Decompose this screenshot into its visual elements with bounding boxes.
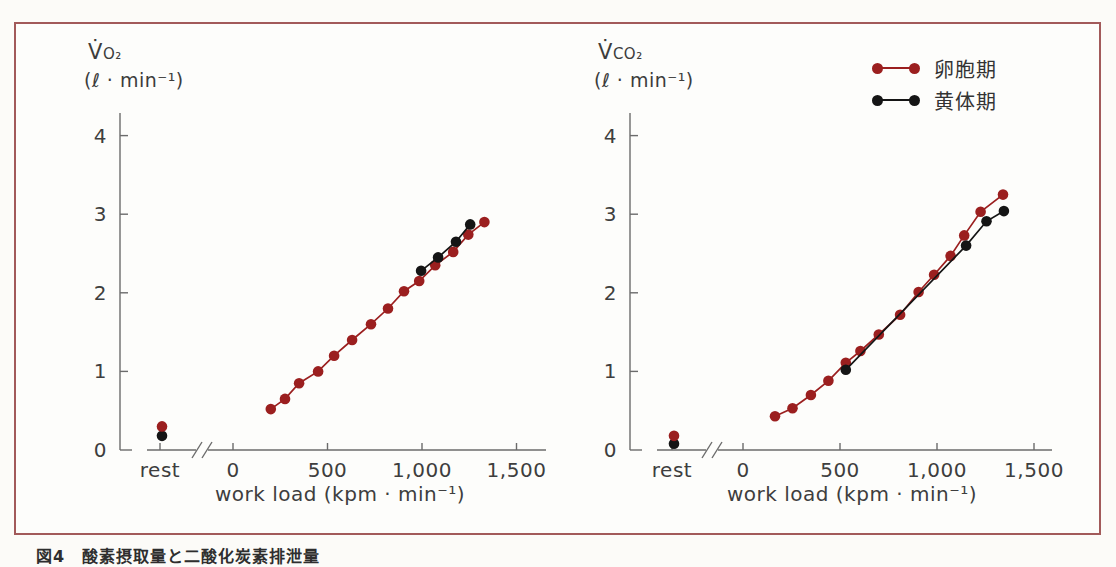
data-point [479, 217, 490, 228]
legend: 卵胞期 黄体期 [872, 56, 997, 112]
series-line [421, 224, 470, 270]
vco2-unit-label: (ℓ · min⁻¹) [594, 69, 694, 91]
data-point [414, 276, 425, 287]
data-point [999, 206, 1010, 217]
y-tick-label: 4 [604, 124, 617, 148]
rest-data-point [157, 431, 168, 442]
figure-caption: 図4 酸素摂取量と二酸化炭素排泄量 [36, 543, 320, 567]
data-point [451, 236, 462, 247]
legend-dot-icon [872, 63, 883, 74]
data-point [347, 335, 358, 346]
y-tick-label: 4 [94, 124, 107, 148]
legend-label-luteal: 黄体期 [934, 86, 997, 115]
data-point [280, 394, 291, 405]
x-tick-label: 0 [736, 458, 749, 482]
data-point [416, 266, 427, 277]
data-point [823, 376, 834, 387]
y-tick-label: 2 [94, 281, 107, 305]
vo2-label: V̇ [88, 40, 103, 64]
vco2-axis-title: V̇CO₂ [598, 40, 643, 64]
rest-tick-label: rest [140, 458, 180, 482]
legend-label-follicular: 卵胞期 [934, 54, 997, 83]
vo2-chart: 01234rest05001,0001,500work load (kpm · … [94, 113, 547, 506]
vco2-sub-label: CO₂ [613, 45, 643, 63]
data-point [787, 403, 798, 414]
x-tick-label: 1,500 [487, 458, 547, 482]
y-tick-label: 1 [604, 359, 617, 383]
data-point [959, 230, 970, 241]
y-tick-label: 1 [94, 359, 107, 383]
data-point [399, 286, 410, 297]
legend-dot-icon [909, 63, 920, 74]
data-point [945, 251, 956, 262]
data-point [806, 390, 817, 401]
legend-item-follicular: 卵胞期 [872, 56, 997, 80]
data-point [366, 319, 377, 330]
data-point [329, 350, 340, 361]
x-axis-title: work load (kpm · min⁻¹) [727, 482, 977, 506]
series-line [775, 195, 1003, 417]
y-tick-label: 3 [604, 202, 617, 226]
data-point [313, 366, 324, 377]
x-tick-label: 1,500 [1004, 458, 1064, 482]
data-point [998, 189, 1009, 200]
follicular-line-marker-icon [872, 62, 920, 74]
x-tick-label: 1,000 [907, 458, 967, 482]
luteal-line-marker-icon [872, 94, 920, 106]
data-point [266, 404, 277, 415]
data-point [433, 252, 444, 263]
x-axis-title: work load (kpm · min⁻¹) [215, 482, 465, 506]
rest-data-point [157, 421, 168, 432]
vco2-label: V̇ [598, 40, 613, 64]
data-point [465, 219, 476, 230]
data-point [841, 365, 852, 376]
vo2-unit-label: (ℓ · min⁻¹) [84, 69, 184, 91]
data-point [294, 378, 305, 389]
vo2-axis-title: V̇O₂ [88, 40, 122, 64]
data-point [383, 303, 394, 314]
x-tick-label: 500 [308, 458, 348, 482]
y-tick-label: 0 [94, 438, 107, 462]
vco2-chart: 01234rest05001,0001,500work load (kpm · … [604, 113, 1064, 506]
y-tick-label: 0 [604, 438, 617, 462]
rest-data-point [669, 431, 680, 442]
legend-dot-icon [909, 95, 920, 106]
vo2-sub-label: O₂ [103, 45, 122, 63]
data-point [981, 216, 992, 227]
y-tick-label: 3 [94, 202, 107, 226]
x-tick-label: 0 [226, 458, 239, 482]
legend-dot-icon [872, 95, 883, 106]
x-tick-label: 500 [820, 458, 860, 482]
data-point [770, 411, 781, 422]
series-line [846, 211, 1004, 370]
x-tick-label: 1,000 [392, 458, 452, 482]
legend-item-luteal: 黄体期 [872, 88, 997, 112]
data-point [975, 207, 986, 218]
y-tick-label: 2 [604, 281, 617, 305]
rest-tick-label: rest [652, 458, 692, 482]
data-point [961, 240, 972, 251]
